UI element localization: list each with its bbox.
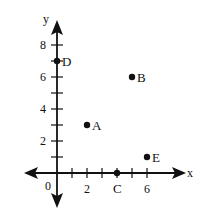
y-tick-label: 2 xyxy=(40,134,46,148)
point-label: B xyxy=(137,70,146,85)
point-label: A xyxy=(92,118,102,133)
x-axis xyxy=(24,167,186,179)
y-axis xyxy=(51,20,63,208)
y-axis-label: y xyxy=(43,12,49,26)
x-tick-label: 2 xyxy=(84,182,90,196)
point-dot-icon xyxy=(54,58,60,64)
point-a: A xyxy=(84,118,102,133)
origin-label: 0 xyxy=(45,179,51,193)
point-dot-icon xyxy=(129,74,135,80)
y-tick-label: 4 xyxy=(40,102,46,116)
point-label: D xyxy=(62,54,71,69)
x-axis-label: x xyxy=(187,166,193,180)
point-dot-icon xyxy=(84,122,90,128)
coordinate-plane: 262468 x y 0 ABCDE xyxy=(0,0,200,220)
point-dot-icon xyxy=(144,154,150,160)
x-tick-label: 6 xyxy=(144,182,150,196)
point-label: C xyxy=(113,181,122,196)
y-tick-label: 8 xyxy=(40,38,46,52)
point-e: E xyxy=(144,150,160,165)
point-b: B xyxy=(129,70,146,85)
point-dot-icon xyxy=(114,170,120,176)
data-points: ABCDE xyxy=(54,54,160,196)
point-label: E xyxy=(152,150,160,165)
y-tick-label: 6 xyxy=(40,70,46,84)
